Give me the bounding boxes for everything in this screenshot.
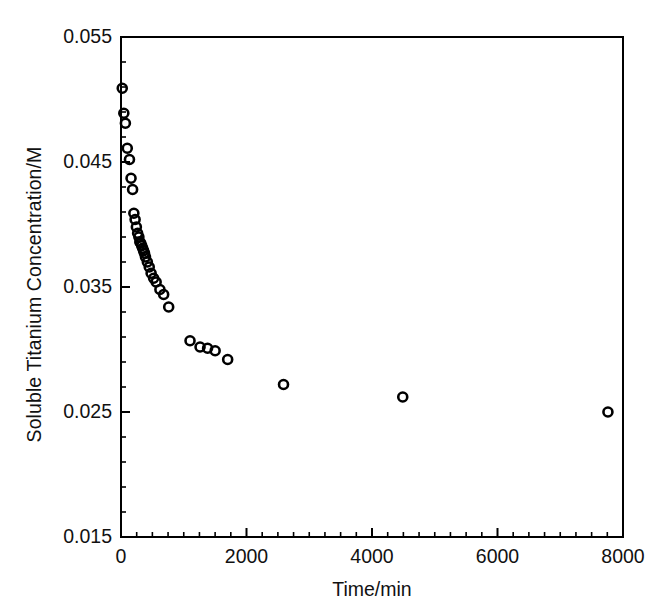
x-axis-title: Time/min bbox=[121, 578, 623, 601]
x-tick-label: 6000 bbox=[438, 547, 558, 567]
x-tick-label: 4000 bbox=[312, 547, 432, 567]
x-tick-label: 2000 bbox=[187, 547, 307, 567]
y-axis-title: Soluble Titanium Concentration/M bbox=[23, 75, 46, 515]
chart-figure: 0.0150.0250.0350.0450.055 02000400060008… bbox=[0, 0, 669, 612]
x-axis-tick-labels: 02000400060008000 bbox=[0, 0, 669, 612]
x-tick-label: 0 bbox=[61, 547, 181, 567]
x-tick-label: 8000 bbox=[563, 547, 669, 567]
